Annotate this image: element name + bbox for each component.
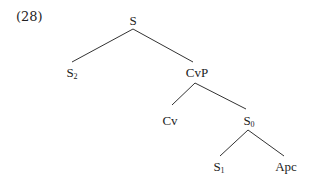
node-S1: S1 [213, 160, 224, 178]
node-S0-subscript: 0 [251, 120, 255, 129]
edge-S-S2 [72, 29, 133, 62]
node-S2: S2 [66, 66, 77, 84]
tree-edges [0, 0, 313, 186]
node-Cv: Cv [162, 114, 177, 128]
node-S-label: S [129, 13, 136, 28]
node-S0: S0 [243, 114, 254, 132]
node-S1-subscript: 1 [221, 166, 225, 175]
node-Apc-label: Apc [275, 159, 297, 174]
edge-S0-Apc [248, 130, 284, 156]
node-Apc: Apc [275, 160, 297, 174]
node-S2-subscript: 2 [74, 72, 78, 81]
edge-CvP-Cv [172, 83, 195, 105]
node-S: S [129, 14, 136, 28]
node-CvP: CvP [186, 66, 208, 80]
edge-S0-S1 [220, 130, 248, 156]
edge-CvP-S0 [195, 83, 246, 109]
node-Cv-label: Cv [162, 113, 177, 128]
edge-S-CvP [133, 29, 193, 62]
node-CvP-label: CvP [186, 65, 208, 80]
